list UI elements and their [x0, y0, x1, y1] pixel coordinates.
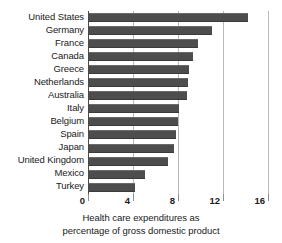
category-label: Turkey — [0, 181, 84, 191]
category-label: Belgium — [0, 116, 84, 126]
y-axis-line — [88, 11, 89, 194]
bar-fill — [88, 170, 145, 179]
bar-fill — [88, 104, 179, 113]
bar — [88, 52, 193, 61]
bar — [88, 117, 178, 126]
x-tick-mark — [223, 194, 224, 201]
x-tick-mark — [133, 194, 134, 201]
category-label: United Kingdom — [0, 155, 84, 165]
category-label: Germany — [0, 25, 84, 35]
bar-fill — [88, 39, 198, 48]
bar — [88, 104, 179, 113]
bar — [88, 183, 135, 192]
bar — [88, 39, 198, 48]
bar-fill — [88, 91, 187, 100]
x-tick-label: 8 — [170, 195, 178, 207]
bar-fill — [88, 26, 212, 35]
bar-fill — [88, 65, 189, 74]
x-tick-mark — [178, 194, 179, 201]
bar-fill — [88, 13, 248, 22]
category-label: Canada — [0, 51, 84, 61]
category-label: France — [0, 38, 84, 48]
x-tick-label: 0 — [80, 195, 88, 207]
category-label: Australia — [0, 90, 84, 100]
gridline-12 — [223, 11, 224, 194]
bar — [88, 26, 212, 35]
bar — [88, 157, 168, 166]
category-label: Italy — [0, 103, 84, 113]
bar-fill — [88, 52, 193, 61]
bar-fill — [88, 130, 176, 139]
category-label: Spain — [0, 129, 84, 139]
bar-fill — [88, 117, 178, 126]
category-label: Mexico — [0, 168, 84, 178]
bar-fill — [88, 144, 174, 153]
bar-chart-figure: United StatesGermanyFranceCanadaGreeceNe… — [0, 0, 282, 243]
x-axis-tick-labels: 0481216 — [0, 195, 282, 208]
category-label: Greece — [0, 64, 84, 74]
category-label: United States — [0, 12, 84, 22]
bar — [88, 170, 145, 179]
bar — [88, 144, 174, 153]
bar-fill — [88, 183, 135, 192]
x-tick-label: 12 — [209, 195, 223, 207]
x-tick-label: 4 — [125, 195, 133, 207]
bar-fill — [88, 78, 188, 87]
bar-fill — [88, 157, 168, 166]
caption-line-2: percentage of gross domestic product — [0, 224, 282, 237]
x-tick-mark — [88, 194, 89, 201]
category-label: Japan — [0, 142, 84, 152]
category-label: Netherlands — [0, 77, 84, 87]
category-axis-labels: United StatesGermanyFranceCanadaGreeceNe… — [0, 11, 84, 194]
plot-area — [88, 11, 268, 194]
bar — [88, 91, 187, 100]
bar — [88, 13, 248, 22]
axis-caption: Health care expenditures as percentage o… — [0, 211, 282, 237]
x-tick-mark — [268, 194, 269, 201]
bar — [88, 78, 188, 87]
bar — [88, 130, 176, 139]
caption-line-1: Health care expenditures as — [0, 211, 282, 224]
x-tick-label: 16 — [254, 195, 268, 207]
gridline-16 — [268, 11, 269, 194]
bar — [88, 65, 189, 74]
